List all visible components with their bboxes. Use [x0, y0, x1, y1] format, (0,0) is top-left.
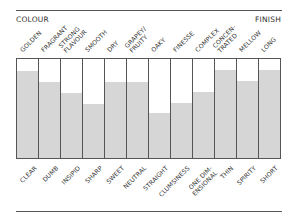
bar-fill: [17, 71, 39, 158]
bar-fill: [83, 104, 105, 158]
bar-column: [214, 59, 236, 158]
column-divider: [148, 59, 149, 158]
finish-label: FINISH: [255, 15, 281, 24]
bar-fill: [236, 81, 258, 158]
bar-fill: [214, 70, 236, 158]
column-divider: [258, 59, 259, 158]
bottom-category-label: DUMB: [42, 165, 60, 183]
bar-column: [149, 59, 171, 158]
bar-column: [127, 59, 149, 158]
bar-fill: [170, 103, 192, 158]
bar-column: [61, 59, 83, 158]
top-category-label: FINESSE: [172, 31, 195, 54]
bar-fill: [149, 113, 171, 158]
column-divider: [126, 59, 127, 158]
column-divider: [104, 59, 105, 158]
bar-fill: [39, 82, 61, 158]
bottom-category-label: CLEAR: [19, 165, 38, 184]
top-category-label: DRY: [107, 40, 121, 54]
bar-column: [17, 59, 39, 158]
top-category-label: OAKY: [150, 37, 167, 54]
column-divider: [60, 59, 61, 158]
bottom-category-label: INSIPID: [61, 165, 82, 186]
bar-fill: [258, 70, 280, 158]
top-category-label: GOLDEN: [19, 30, 43, 54]
bar-column: [258, 59, 280, 158]
bottom-category-label: SHORT: [259, 165, 279, 185]
chart-frame: [16, 58, 281, 159]
bottom-category-label: THIN: [220, 165, 235, 180]
column-divider: [170, 59, 171, 158]
bottom-category-label: SPIRITY: [236, 165, 258, 187]
bar-column: [105, 59, 127, 158]
bar-fill: [105, 82, 127, 158]
column-divider: [192, 59, 193, 158]
bar-fill: [127, 82, 149, 158]
bar-column: [236, 59, 258, 158]
bottom-rule: [16, 211, 282, 212]
column-divider: [236, 59, 237, 158]
top-category-label: SMOOTH: [85, 29, 109, 53]
top-rule: [16, 10, 282, 11]
column-divider: [214, 59, 215, 158]
bar-column: [192, 59, 214, 158]
bar-column: [39, 59, 61, 158]
bar-column: [170, 59, 192, 158]
bottom-category-label: SHARP: [84, 165, 104, 185]
column-divider: [38, 59, 39, 158]
bar-fill: [61, 93, 83, 158]
bar-column: [83, 59, 105, 158]
top-category-label: LONG: [260, 37, 277, 54]
bar-fill: [192, 92, 214, 158]
column-divider: [82, 59, 83, 158]
colour-label: COLOUR: [16, 15, 49, 24]
top-category-label: GRAPEY/ FRUITY: [124, 25, 153, 54]
